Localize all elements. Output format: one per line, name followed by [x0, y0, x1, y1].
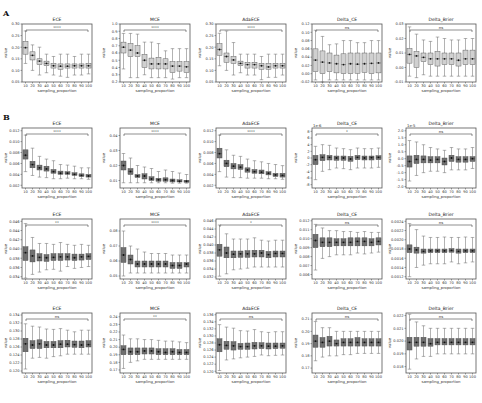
svg-text:0.032: 0.032: [203, 275, 213, 279]
svg-text:90: 90: [273, 84, 278, 88]
subplot-mce: MCE**0.170.180.190.200.210.220.230.24val…: [101, 306, 191, 384]
svg-text:0.122: 0.122: [203, 362, 213, 366]
svg-text:ECE: ECE: [53, 17, 62, 22]
svg-text:0.10: 0.10: [11, 69, 20, 73]
svg-text:0.04: 0.04: [301, 55, 310, 59]
svg-text:value: value: [197, 337, 202, 348]
svg-text:sampling_proportion: sampling_proportion: [135, 88, 175, 93]
svg-text:10: 10: [121, 190, 126, 194]
svg-text:0.18: 0.18: [301, 354, 310, 358]
svg-text:sampling_proportion: sampling_proportion: [135, 379, 175, 384]
svg-text:20: 20: [414, 281, 419, 285]
svg-text:0.132: 0.132: [203, 327, 213, 331]
subplot-delta-brier: Delta_Brierns0.00120.00140.00160.00180.0…: [387, 212, 477, 290]
svg-text:20: 20: [224, 84, 229, 88]
svg-text:0.2: 0.2: [112, 80, 118, 84]
svg-text:100: 100: [469, 375, 477, 379]
svg-text:0.124: 0.124: [203, 355, 214, 359]
svg-text:10: 10: [407, 281, 412, 285]
svg-text:0.008: 0.008: [203, 151, 214, 155]
svg-text:0: 0: [307, 156, 310, 160]
subplot-adaece: AdaECE****0.0020.0040.0060.0080.0100.012…: [197, 121, 287, 199]
svg-text:0.05: 0.05: [11, 80, 19, 84]
svg-text:value: value: [197, 47, 202, 58]
svg-text:0.23: 0.23: [109, 323, 117, 327]
svg-text:0.046: 0.046: [9, 220, 20, 224]
svg-text:0.046: 0.046: [203, 219, 214, 223]
svg-text:0.034: 0.034: [203, 267, 214, 271]
svg-text:MCE: MCE: [150, 212, 160, 217]
svg-text:10: 10: [121, 375, 126, 379]
svg-text:0.08: 0.08: [301, 39, 310, 43]
svg-text:20: 20: [320, 84, 325, 88]
svg-text:10: 10: [313, 281, 318, 285]
svg-text:-2.0: -2.0: [396, 185, 404, 189]
svg-text:0.042: 0.042: [203, 235, 213, 239]
svg-text:20: 20: [414, 375, 419, 379]
svg-text:20: 20: [224, 190, 229, 194]
svg-text:2: 2: [307, 150, 309, 154]
svg-text:90: 90: [369, 375, 374, 379]
svg-text:value: value: [3, 152, 8, 163]
svg-text:0.019: 0.019: [393, 352, 404, 356]
svg-text:sampling_proportion: sampling_proportion: [421, 379, 461, 384]
svg-text:20: 20: [224, 375, 229, 379]
svg-text:20: 20: [128, 190, 133, 194]
svg-text:MCE: MCE: [150, 121, 160, 126]
svg-text:sampling_proportion: sampling_proportion: [327, 194, 367, 199]
svg-text:Delta_Brier: Delta_Brier: [428, 306, 453, 312]
svg-text:10: 10: [23, 84, 28, 88]
svg-text:ns: ns: [249, 314, 253, 319]
svg-text:sampling_proportion: sampling_proportion: [327, 285, 367, 290]
svg-text:-1.5: -1.5: [396, 178, 403, 182]
svg-text:****: ****: [151, 220, 159, 225]
svg-text:100: 100: [375, 281, 383, 285]
svg-text:90: 90: [463, 281, 468, 285]
svg-text:0.01: 0.01: [109, 179, 117, 183]
svg-text:20: 20: [128, 84, 133, 88]
svg-text:0.0018: 0.0018: [391, 247, 404, 251]
subplot-mce: MCE****0.20.30.40.50.60.70.80.91.0value1…: [101, 17, 191, 93]
svg-text:0.122: 0.122: [9, 361, 19, 365]
svg-text:90: 90: [273, 190, 278, 194]
svg-text:0.3: 0.3: [112, 73, 118, 77]
svg-text:0.008: 0.008: [9, 151, 20, 155]
svg-text:100: 100: [183, 190, 191, 194]
svg-text:10: 10: [313, 375, 318, 379]
svg-text:20: 20: [320, 281, 325, 285]
svg-text:ns: ns: [345, 25, 349, 30]
svg-text:0.5: 0.5: [112, 59, 118, 63]
subplot-ece: ECE****0.050.100.150.200.250.30value1020…: [3, 17, 93, 93]
svg-text:0.011: 0.011: [299, 228, 309, 232]
svg-text:0.044: 0.044: [9, 229, 20, 233]
svg-text:*: *: [250, 220, 252, 225]
svg-text:0.126: 0.126: [9, 345, 20, 349]
svg-text:value: value: [3, 243, 8, 254]
subplot-delta-brier: Delta_Brierns-0.010.000.010.020.03value1…: [387, 17, 477, 93]
svg-text:0.012: 0.012: [299, 219, 309, 223]
svg-text:0.0024: 0.0024: [391, 220, 404, 224]
svg-text:90: 90: [79, 84, 84, 88]
svg-text:0.006: 0.006: [203, 162, 214, 166]
svg-text:0.19: 0.19: [301, 342, 310, 346]
svg-text:AdaECE: AdaECE: [242, 17, 260, 22]
svg-text:0.022: 0.022: [393, 314, 403, 318]
subplot-mce: MCE****0.050.060.070.08value102030405060…: [101, 212, 191, 290]
svg-text:100: 100: [375, 190, 383, 194]
svg-text:0.002: 0.002: [9, 184, 19, 188]
subplot-delta-ce: Delta_CEns0.170.180.190.200.21value10203…: [293, 306, 383, 384]
svg-text:0.0016: 0.0016: [391, 257, 404, 261]
svg-text:0.040: 0.040: [9, 247, 20, 251]
svg-text:0.01: 0.01: [395, 51, 403, 55]
svg-text:Delta_CE: Delta_CE: [337, 212, 357, 218]
svg-text:10: 10: [407, 190, 412, 194]
svg-text:sampling_proportion: sampling_proportion: [231, 88, 271, 93]
subplot-delta-ce: Delta_CEns0.0060.0070.0080.0090.0100.011…: [293, 212, 383, 290]
svg-text:0.18: 0.18: [109, 361, 118, 365]
svg-text:sampling_proportion: sampling_proportion: [421, 194, 461, 199]
svg-text:100: 100: [469, 190, 477, 194]
svg-text:90: 90: [79, 281, 84, 285]
svg-text:0.040: 0.040: [203, 243, 214, 247]
svg-text:Delta_Brier: Delta_Brier: [428, 121, 453, 127]
svg-text:0.25: 0.25: [11, 34, 19, 38]
